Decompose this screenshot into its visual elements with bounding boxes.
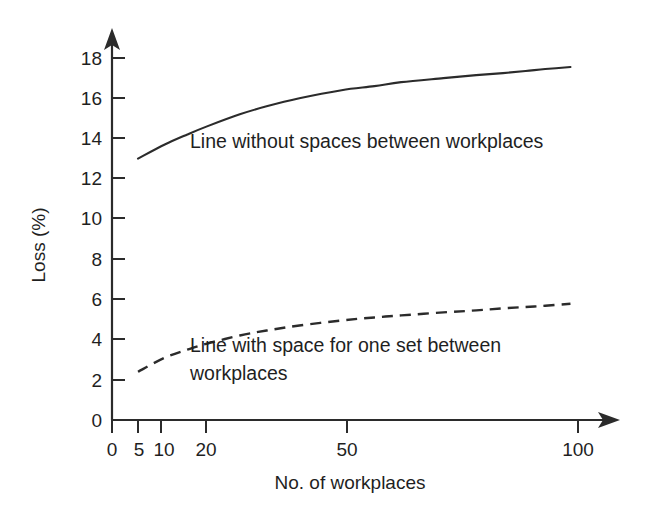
x-axis-title: No. of workplaces — [274, 472, 425, 493]
y-tick-label-10: 10 — [81, 208, 102, 229]
y-tick-label-14: 14 — [81, 128, 103, 149]
y-tick-label-16: 16 — [81, 88, 102, 109]
y-tick-label-8: 8 — [91, 249, 102, 270]
x-tick-label-5: 5 — [134, 439, 145, 460]
x-tick-label-10: 10 — [153, 439, 174, 460]
chart-figure: 18 16 14 12 10 8 6 4 2 0 Loss (%) 0 — [0, 0, 648, 505]
x-tick-label-0: 0 — [107, 439, 118, 460]
y-axis-title: Loss (%) — [28, 208, 49, 283]
y-tick-label-4: 4 — [91, 329, 102, 350]
y-tick-label-12: 12 — [81, 168, 102, 189]
y-axis-group: 18 16 14 12 10 8 6 4 2 0 Loss (%) — [28, 28, 125, 431]
annotation-dashed-line1: Line with space for one set between — [190, 334, 501, 356]
x-tick-label-50: 50 — [336, 439, 357, 460]
x-tick-label-20: 20 — [195, 439, 216, 460]
y-tick-label-2: 2 — [91, 370, 102, 391]
x-tick-label-100: 100 — [562, 439, 594, 460]
y-tick-label-18: 18 — [81, 48, 102, 69]
chart-canvas: 18 16 14 12 10 8 6 4 2 0 Loss (%) 0 — [0, 0, 648, 505]
series-group — [138, 67, 570, 372]
y-tick-label-0: 0 — [91, 410, 102, 431]
annotation-group: Line without spaces between workplaces L… — [189, 130, 544, 384]
y-tick-label-6: 6 — [91, 289, 102, 310]
annotation-dashed-line2: workplaces — [189, 362, 288, 384]
x-axis-group: 0 5 10 20 50 100 No. of workplaces — [107, 412, 620, 493]
annotation-solid-line1: Line without spaces between workplaces — [190, 130, 544, 152]
